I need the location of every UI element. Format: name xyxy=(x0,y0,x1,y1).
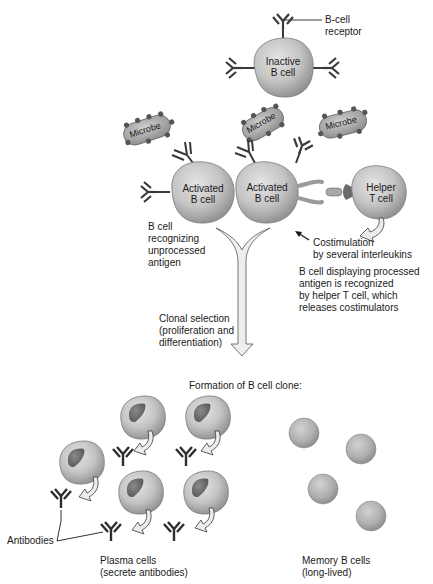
plasma-cell-1 xyxy=(121,396,166,439)
memory-cells-label: Memory B cells (long-lived) xyxy=(302,555,370,579)
b-cell-recognizing-label: B cell recognizing unprocessed antigen xyxy=(148,221,205,269)
costimulation-pointer-arrow xyxy=(295,231,309,240)
helper-t-cell-label: Helper T cell xyxy=(360,182,402,204)
antibodies-label: Antibodies xyxy=(7,535,54,547)
plasma-cells-label: Plasma cells (secrete antibodies) xyxy=(100,555,188,579)
antibody-4 xyxy=(101,522,121,541)
plasma-cell-5 xyxy=(184,471,229,514)
antibody-3 xyxy=(51,489,71,508)
inactive-b-cell-label: Inactive B cell xyxy=(260,56,306,78)
b-cell-clonal-selection-diagram: Inactive B cell Activated B cell Activat… xyxy=(0,0,433,584)
plasma-cell-4 xyxy=(119,471,164,514)
formation-clone-label: Formation of B cell clone: xyxy=(189,380,302,392)
memory-b-cell-2 xyxy=(346,434,376,464)
antibody-5 xyxy=(164,522,184,541)
activated-b-cell-2-label: Activated B cell xyxy=(241,182,293,204)
memory-b-cell-4 xyxy=(356,501,386,531)
b-cell-receptor-label: B-cell receptor xyxy=(325,14,362,38)
activated-b-cell-1-label: Activated B cell xyxy=(177,183,229,205)
clonal-selection-label: Clonal selection (proliferation and diff… xyxy=(159,313,234,349)
memory-b-cell-3 xyxy=(308,474,338,504)
antibody-1 xyxy=(113,447,133,466)
costimulation-label: Costimulation by several interleukins xyxy=(313,237,412,261)
antibody-2 xyxy=(176,447,196,466)
antibodies-callout-lines xyxy=(57,510,103,541)
b-cell-displaying-label: B cell displaying processed antigen is r… xyxy=(299,266,420,314)
activated-b-cell-2 xyxy=(235,136,354,224)
plasma-cell-2 xyxy=(186,396,231,439)
memory-b-cell-1 xyxy=(289,418,319,448)
